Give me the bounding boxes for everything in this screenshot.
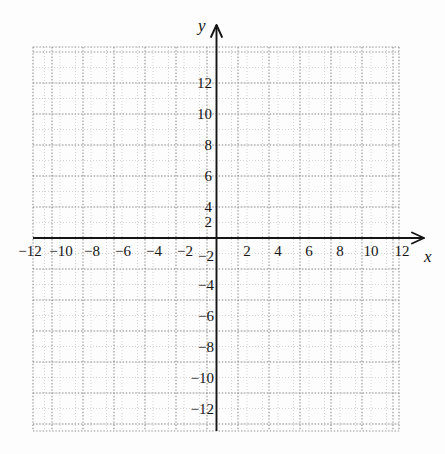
x-tick-label: 4 [274, 244, 282, 259]
x-tick-label: 8 [336, 244, 344, 259]
coordinate-grid [0, 0, 445, 454]
y-tick-label: −12 [191, 402, 214, 417]
x-tick-label: 12 [395, 244, 410, 259]
x-tick-label: −10 [49, 244, 72, 259]
y-tick-label: 8 [205, 138, 213, 153]
y-tick-label: −8 [198, 340, 214, 355]
y-tick-label: 2 [205, 215, 213, 230]
x-tick-label: −4 [146, 244, 162, 259]
y-axis-label: y [198, 17, 206, 34]
y-tick-label: −10 [191, 371, 214, 386]
x-tick-label: 10 [364, 244, 379, 259]
x-tick-label: 6 [305, 244, 313, 259]
y-tick-label: −4 [198, 278, 214, 293]
y-tick-label: 4 [205, 200, 213, 215]
x-tick-label: −8 [84, 244, 100, 259]
x-tick-label: −12 [18, 244, 41, 259]
y-tick-label: −2 [198, 249, 214, 264]
x-tick-label: −6 [115, 244, 131, 259]
y-tick-label: 6 [205, 169, 213, 184]
x-tick-label: 2 [243, 244, 251, 259]
y-tick-label: 10 [197, 107, 212, 122]
x-axis-line [33, 233, 424, 244]
coordinate-plane-figure: −12 −10 −8 −6 −4 −2 2 4 6 8 10 12 12 10 … [0, 0, 445, 454]
x-axis-label: x [424, 248, 432, 265]
y-tick-label: 12 [197, 76, 212, 91]
x-tick-label: −2 [177, 244, 193, 259]
y-tick-label: −6 [198, 309, 214, 324]
